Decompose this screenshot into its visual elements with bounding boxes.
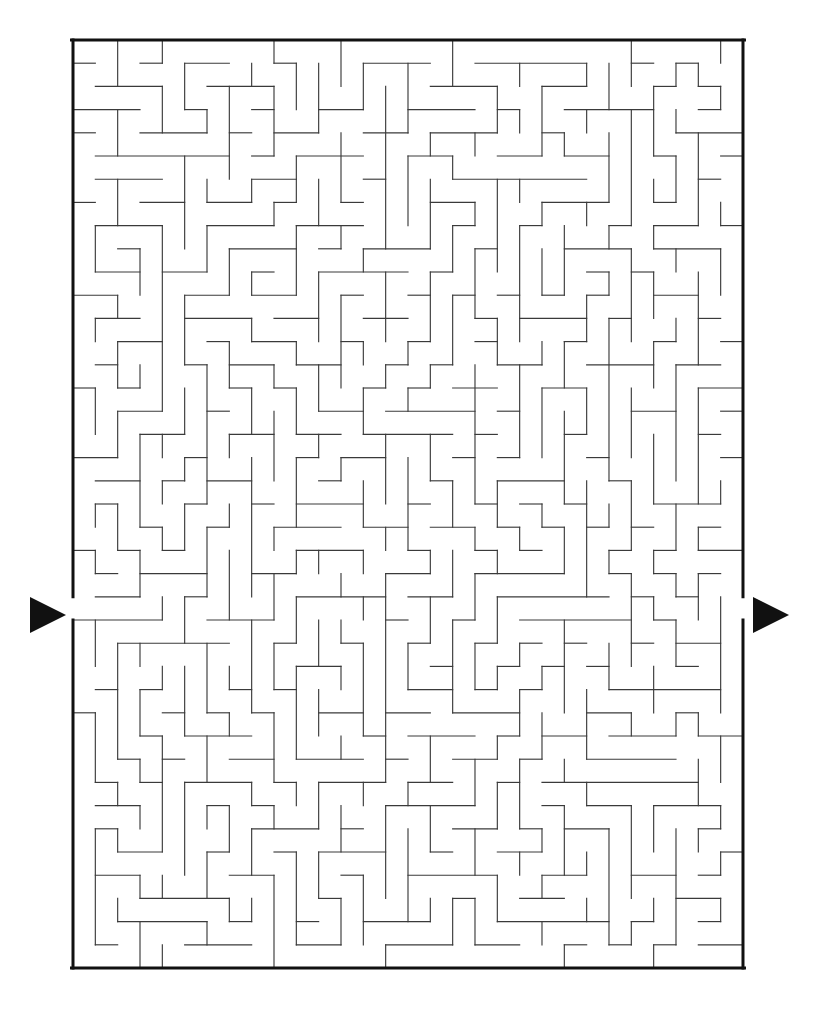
maze-figure <box>0 0 819 1015</box>
maze-page <box>0 0 819 1015</box>
maze-background <box>0 0 819 1015</box>
maze-canvas <box>0 0 819 1015</box>
